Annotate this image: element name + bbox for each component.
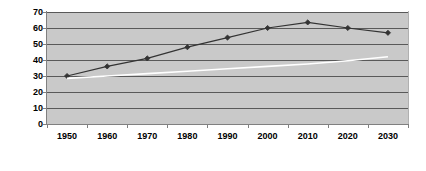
- data-point-marker: [385, 30, 390, 35]
- x-tick-label: 2010: [298, 132, 318, 141]
- y-tick-mark: [43, 76, 47, 77]
- x-tick-mark: [328, 124, 329, 128]
- y-tick-mark: [43, 92, 47, 93]
- x-tick-mark: [248, 124, 249, 128]
- y-tick-label: 20: [3, 88, 43, 97]
- x-tick-mark: [207, 124, 208, 128]
- data-point-marker: [225, 35, 230, 40]
- y-tick-mark: [43, 12, 47, 13]
- data-point-marker: [185, 45, 190, 50]
- x-tick-mark: [167, 124, 168, 128]
- x-tick-mark: [408, 124, 409, 128]
- y-tick-label: 10: [3, 104, 43, 113]
- y-tick-label: 70: [3, 8, 43, 17]
- line-chart: 010203040506070 195019601970198019902000…: [0, 0, 426, 171]
- data-point-marker: [105, 64, 110, 69]
- x-tick-label: 2030: [378, 132, 398, 141]
- x-tick-mark: [47, 124, 48, 128]
- x-tick-label: 1990: [217, 132, 237, 141]
- x-tick-label: 2020: [338, 132, 358, 141]
- x-axis-labels: 195019601970198019902000201020202030: [0, 128, 426, 148]
- y-tick-label: 60: [3, 24, 43, 33]
- x-tick-label: 1960: [97, 132, 117, 141]
- y-tick-mark: [43, 28, 47, 29]
- plot-svg: [47, 12, 408, 124]
- plot-area: [47, 12, 408, 124]
- data-point-marker: [345, 25, 350, 30]
- x-tick-label: 2000: [258, 132, 278, 141]
- x-tick-mark: [87, 124, 88, 128]
- y-tick-label: 40: [3, 56, 43, 65]
- x-tick-mark: [288, 124, 289, 128]
- y-tick-label: 30: [3, 72, 43, 81]
- y-tick-mark: [43, 44, 47, 45]
- x-tick-label: 1980: [177, 132, 197, 141]
- y-tick-mark: [43, 60, 47, 61]
- x-tick-mark: [368, 124, 369, 128]
- y-tick-mark: [43, 108, 47, 109]
- y-tick-label: 50: [3, 40, 43, 49]
- data-point-marker: [265, 25, 270, 30]
- x-tick-label: 1970: [137, 132, 157, 141]
- x-tick-mark: [127, 124, 128, 128]
- data-point-marker: [305, 20, 310, 25]
- series-line: [67, 22, 388, 76]
- x-tick-label: 1950: [57, 132, 77, 141]
- series-layer: [64, 20, 390, 79]
- x-axis-line: [46, 124, 409, 125]
- plot-right-border: [408, 11, 409, 125]
